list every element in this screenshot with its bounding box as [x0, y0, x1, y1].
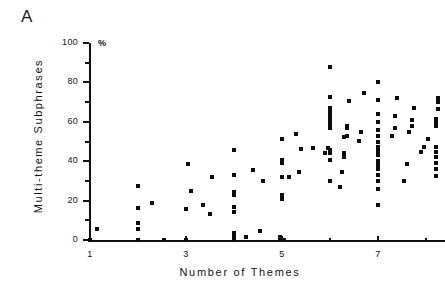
- data-point: [328, 122, 332, 126]
- y-tick-major: [83, 81, 89, 83]
- x-tick-minor: [425, 238, 427, 242]
- data-point: [244, 235, 248, 239]
- x-tick-label: 3: [179, 249, 193, 259]
- data-point: [328, 65, 332, 69]
- data-point: [328, 118, 332, 122]
- data-point: [328, 158, 332, 162]
- y-tick-label: 100: [52, 37, 78, 47]
- data-point: [136, 184, 140, 188]
- data-point: [184, 207, 188, 211]
- data-point: [376, 140, 380, 144]
- data-point: [402, 179, 406, 183]
- data-point: [251, 168, 255, 172]
- data-point: [232, 148, 236, 152]
- x-axis-line: [89, 240, 445, 242]
- data-point: [410, 124, 414, 128]
- x-tick-label: 7: [371, 249, 385, 259]
- data-point: [280, 175, 284, 179]
- data-point: [419, 150, 423, 154]
- y-tick-label: 80: [52, 76, 78, 86]
- data-point: [280, 158, 284, 162]
- data-point: [434, 161, 438, 165]
- data-point: [376, 159, 380, 163]
- data-point: [311, 146, 315, 150]
- figure-panel-a: A Multi-theme Subphrases Number of Theme…: [0, 0, 445, 291]
- data-point: [376, 149, 380, 153]
- data-point: [280, 137, 284, 141]
- data-point: [232, 205, 236, 209]
- data-point: [345, 124, 349, 128]
- data-point: [232, 235, 236, 239]
- y-tick-major: [83, 160, 89, 162]
- x-tick-label: 1: [83, 249, 97, 259]
- y-tick-label: 0: [52, 234, 78, 244]
- data-point: [359, 130, 363, 134]
- y-axis-line: [89, 43, 91, 242]
- data-point: [186, 162, 190, 166]
- data-point: [434, 155, 438, 159]
- data-point: [282, 238, 286, 242]
- data-point: [294, 132, 298, 136]
- data-point: [280, 193, 284, 197]
- data-point: [136, 238, 140, 242]
- data-point: [376, 167, 380, 171]
- data-point: [362, 91, 366, 95]
- y-tick-minor: [85, 101, 89, 103]
- y-tick-major: [83, 121, 89, 123]
- data-point: [258, 229, 262, 233]
- data-point: [434, 150, 438, 154]
- data-point: [376, 153, 380, 157]
- y-tick-major: [83, 42, 89, 44]
- data-point: [95, 227, 99, 231]
- data-point: [436, 107, 440, 111]
- data-point: [136, 206, 140, 210]
- data-point: [323, 151, 327, 155]
- data-point: [261, 179, 265, 183]
- data-point: [278, 235, 282, 239]
- y-tick-minor: [85, 219, 89, 221]
- data-point: [376, 145, 380, 149]
- data-point: [347, 99, 351, 103]
- data-point: [328, 110, 332, 114]
- data-point: [434, 167, 438, 171]
- data-point: [340, 170, 344, 174]
- data-point: [393, 114, 397, 118]
- data-point: [393, 126, 397, 130]
- data-point: [150, 201, 154, 205]
- data-point: [299, 147, 303, 151]
- data-point: [376, 80, 380, 84]
- data-point: [376, 128, 380, 132]
- y-tick-minor: [85, 141, 89, 143]
- data-point: [280, 197, 284, 201]
- data-point: [88, 238, 92, 242]
- data-point: [136, 221, 140, 225]
- data-point: [328, 148, 332, 152]
- data-point: [201, 203, 205, 207]
- data-point: [338, 185, 342, 189]
- y-tick-label: 40: [52, 155, 78, 165]
- data-point: [434, 117, 438, 121]
- data-point: [436, 96, 440, 100]
- data-point: [407, 130, 411, 134]
- data-point: [376, 203, 380, 207]
- x-tick-minor: [329, 238, 331, 242]
- data-point: [162, 238, 166, 242]
- data-point: [376, 179, 380, 183]
- data-point: [345, 134, 349, 138]
- data-point: [357, 139, 361, 143]
- data-point: [436, 100, 440, 104]
- data-point: [232, 210, 236, 214]
- data-point: [422, 145, 426, 149]
- data-point: [434, 174, 438, 178]
- data-point: [189, 189, 193, 193]
- data-point: [287, 175, 291, 179]
- data-point: [395, 96, 399, 100]
- y-tick-major: [83, 200, 89, 202]
- data-point: [136, 227, 140, 231]
- data-point: [210, 175, 214, 179]
- y-tick-minor: [85, 62, 89, 64]
- data-point: [434, 124, 438, 128]
- data-point: [376, 98, 380, 102]
- data-point: [412, 106, 416, 110]
- y-tick-label: 60: [52, 116, 78, 126]
